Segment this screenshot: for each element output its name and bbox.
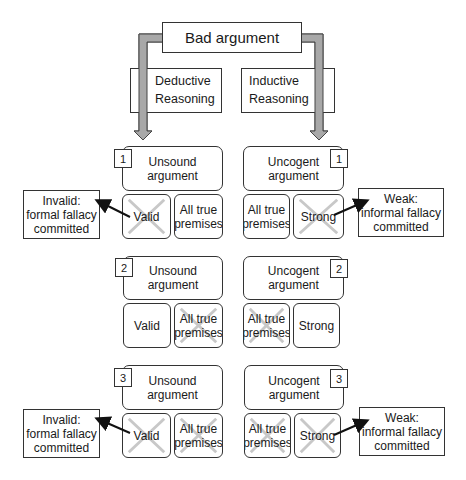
- inductive-label-1: Inductive: [249, 73, 299, 90]
- uncogent-argument-box: Uncogent argument: [243, 256, 344, 300]
- inductive-label-2: Reasoning: [249, 91, 309, 108]
- all-true-premises-cell: All true premises: [243, 194, 290, 239]
- strong-cell: Strong: [293, 194, 344, 239]
- valid-cell: Valid: [123, 303, 171, 348]
- deductive-reasoning-box: Deductive Reasoning: [130, 68, 222, 113]
- deductive-label-2: Reasoning: [155, 91, 215, 108]
- strong-cell: Strong: [293, 303, 340, 348]
- formal-fallacy-note: Invalid: formal fallacy committed: [23, 409, 100, 458]
- case-number-badge: 1: [330, 149, 348, 168]
- case-number-badge: 3: [114, 368, 132, 387]
- informal-fallacy-note: Weak: informal fallacy committed: [359, 407, 445, 456]
- strong-cell: Strong: [294, 413, 341, 458]
- all-true-premises-cell: All true premises: [174, 413, 223, 458]
- unsound-argument-box: Unsound argument: [123, 256, 223, 300]
- formal-fallacy-note: Invalid: formal fallacy committed: [23, 190, 100, 239]
- informal-fallacy-note: Weak: informal fallacy committed: [358, 188, 444, 237]
- inductive-reasoning-box: Inductive Reasoning: [241, 68, 335, 113]
- case-number-badge: 1: [114, 149, 132, 168]
- bad-argument-box: Bad argument: [162, 22, 302, 53]
- uncogent-argument-box: Uncogent argument: [244, 365, 344, 410]
- deductive-label-1: Deductive: [155, 73, 211, 90]
- all-true-premises-cell: All true premises: [174, 303, 223, 348]
- case-number-badge: 2: [115, 258, 133, 277]
- all-true-premises-cell: All true premises: [244, 413, 291, 458]
- unsound-argument-box: Unsound argument: [122, 146, 223, 191]
- all-true-premises-cell: All true premises: [243, 303, 290, 348]
- unsound-argument-box: Unsound argument: [122, 365, 223, 410]
- valid-cell: Valid: [122, 194, 171, 239]
- all-true-premises-cell: All true premises: [174, 194, 223, 239]
- valid-cell: Valid: [122, 413, 171, 458]
- case-number-badge: 2: [330, 259, 348, 278]
- uncogent-argument-box: Uncogent argument: [243, 146, 344, 191]
- bad-argument-label: Bad argument: [185, 29, 279, 46]
- case-number-badge: 3: [330, 369, 348, 388]
